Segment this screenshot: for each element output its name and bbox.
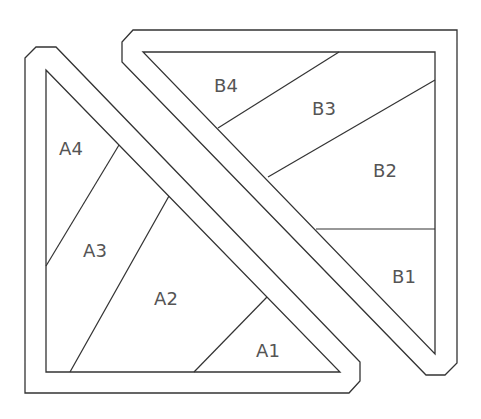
piece-b: B4 B3 B2 B1 bbox=[122, 30, 457, 375]
label-b4: B4 bbox=[214, 75, 238, 96]
piece-b-labels: B4 B3 B2 B1 bbox=[214, 75, 416, 287]
label-b3: B3 bbox=[312, 98, 336, 119]
piece-a-dividers bbox=[46, 145, 267, 372]
a-divider-line bbox=[70, 196, 169, 372]
label-a3: A3 bbox=[83, 240, 107, 261]
a-divider-line bbox=[194, 297, 267, 372]
piece-a-labels: A4 A3 A2 A1 bbox=[59, 138, 280, 361]
label-a2: A2 bbox=[154, 288, 178, 309]
label-a1: A1 bbox=[256, 340, 280, 361]
piece-a-inner-outline bbox=[46, 70, 340, 372]
piece-b-inner-outline bbox=[143, 52, 435, 354]
label-b1: B1 bbox=[392, 266, 416, 287]
piece-a: A4 A3 A2 A1 bbox=[25, 47, 360, 393]
label-a4: A4 bbox=[59, 138, 83, 159]
piece-b-dividers bbox=[218, 52, 435, 229]
quilt-pattern-diagram: A4 A3 A2 A1 B4 B3 B2 B1 bbox=[0, 0, 481, 419]
label-b2: B2 bbox=[373, 160, 397, 181]
b-divider-line bbox=[268, 80, 435, 177]
